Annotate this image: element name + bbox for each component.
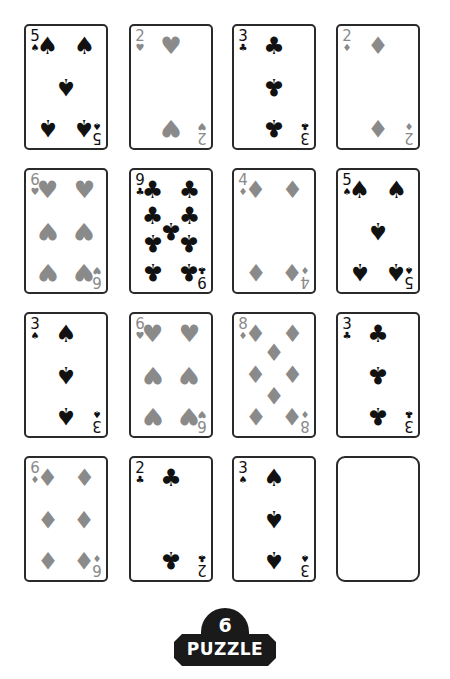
diamond-pip-icon: ♦	[72, 507, 96, 531]
spade-pip-icon: ♠	[262, 466, 286, 490]
diamond-pip-icon: ♦	[280, 260, 304, 284]
card-4-of-diamonds[interactable]: 4♦4♦♦♦♦♦	[232, 168, 316, 294]
diamond-pip-icon: ♦	[244, 404, 268, 428]
club-pip-icon: ♣	[141, 231, 165, 255]
heart-pip-icon: ♥	[141, 363, 165, 387]
club-pip-icon: ♣	[141, 178, 165, 202]
rank-label: 3	[341, 317, 353, 331]
club-pip-icon: ♣	[159, 548, 183, 572]
card-index-tl: 2♥	[134, 29, 146, 53]
card-3-of-spades[interactable]: 3♠3♠♠♠♠	[24, 312, 108, 438]
card-index-br: 3♠	[91, 409, 103, 433]
rank-label: 2	[196, 131, 208, 145]
rank-label: 2	[341, 29, 353, 43]
club-pip-icon: ♣	[262, 34, 286, 58]
card-3-of-clubs[interactable]: 3♣3♣♣♣♣	[232, 24, 316, 150]
rank-label: 2	[134, 461, 146, 475]
spade-pip-icon: ♠	[366, 219, 390, 243]
heart-pip-icon: ♥	[177, 404, 201, 428]
card-2-of-clubs[interactable]: 2♣2♣♣♣	[129, 456, 213, 582]
card-5-of-spades[interactable]: 5♠5♠♠♠♠♠♠	[336, 168, 420, 294]
spade-pip-icon: ♠	[348, 260, 372, 284]
heart-pip-icon: ♥	[177, 322, 201, 346]
rank-label: 3	[29, 317, 41, 331]
card-index-tl: 3♣	[341, 317, 353, 341]
diamond-pip-icon: ♦	[36, 466, 60, 490]
rank-label: 3	[91, 419, 103, 433]
puzzle-number: 6	[174, 614, 276, 636]
club-icon: ♣	[237, 43, 249, 53]
card-index-br: 2♦	[403, 121, 415, 145]
card-3-of-spades[interactable]: 3♠3♠♠♠♠	[232, 456, 316, 582]
card-9-of-clubs[interactable]: 9♣9♣♣♣♣♣♣♣♣♣♣	[129, 168, 213, 294]
empty-card-slot[interactable]	[336, 456, 420, 582]
card-index-br: 2♣	[196, 553, 208, 577]
club-pip-icon: ♣	[159, 466, 183, 490]
diamond-pip-icon: ♦	[72, 548, 96, 572]
club-pip-icon: ♣	[366, 404, 390, 428]
club-pip-icon: ♣	[177, 260, 201, 284]
club-pip-icon: ♣	[141, 260, 165, 284]
spade-pip-icon: ♠	[348, 178, 372, 202]
rank-label: 3	[299, 131, 311, 145]
spade-icon: ♠	[237, 475, 249, 485]
card-8-of-diamonds[interactable]: 8♦8♦♦♦♦♦♦♦♦♦	[232, 312, 316, 438]
club-pip-icon: ♣	[177, 178, 201, 202]
rank-label: 3	[237, 461, 249, 475]
diamond-pip-icon: ♦	[366, 116, 390, 140]
card-6-of-diamonds[interactable]: 6♦6♦♦♦♦♦♦♦	[24, 456, 108, 582]
card-index-br: 2♥	[196, 121, 208, 145]
spade-pip-icon: ♠	[384, 178, 408, 202]
club-pip-icon: ♣	[366, 322, 390, 346]
heart-pip-icon: ♥	[36, 178, 60, 202]
spade-pip-icon: ♠	[262, 507, 286, 531]
heart-pip-icon: ♥	[159, 116, 183, 140]
puzzle-label: PUZZLE	[174, 639, 276, 659]
heart-pip-icon: ♥	[141, 322, 165, 346]
spade-pip-icon: ♠	[384, 260, 408, 284]
rank-label: 3	[299, 563, 311, 577]
club-icon: ♣	[341, 331, 353, 341]
card-5-of-spades[interactable]: 5♠5♠♠♠♠♠♠	[24, 24, 108, 150]
rank-label: 2	[134, 29, 146, 43]
card-index-tl: 3♠	[237, 461, 249, 485]
heart-icon: ♥	[134, 43, 146, 53]
card-index-br: 3♣	[403, 409, 415, 433]
puzzle-badge: 6 PUZZLE	[174, 608, 276, 666]
diamond-pip-icon: ♦	[36, 507, 60, 531]
spade-pip-icon: ♠	[36, 34, 60, 58]
diamond-pip-icon: ♦	[366, 34, 390, 58]
diamond-pip-icon: ♦	[244, 260, 268, 284]
card-index-tl: 2♦	[341, 29, 353, 53]
spade-pip-icon: ♠	[72, 116, 96, 140]
spade-pip-icon: ♠	[54, 363, 78, 387]
card-2-of-diamonds[interactable]: 2♦2♦♦♦	[336, 24, 420, 150]
card-2-of-hearts[interactable]: 2♥2♥♥♥	[129, 24, 213, 150]
diamond-pip-icon: ♦	[72, 466, 96, 490]
rank-label: 2	[403, 131, 415, 145]
rank-label: 3	[403, 419, 415, 433]
heart-pip-icon: ♥	[72, 178, 96, 202]
heart-pip-icon: ♥	[36, 260, 60, 284]
card-6-of-hearts[interactable]: 6♥6♥♥♥♥♥♥♥	[24, 168, 108, 294]
heart-pip-icon: ♥	[72, 219, 96, 243]
spade-pip-icon: ♠	[262, 548, 286, 572]
spade-pip-icon: ♠	[54, 75, 78, 99]
heart-pip-icon: ♥	[177, 363, 201, 387]
spade-pip-icon: ♠	[54, 322, 78, 346]
card-index-br: 3♠	[299, 553, 311, 577]
club-pip-icon: ♣	[262, 75, 286, 99]
spade-pip-icon: ♠	[72, 34, 96, 58]
card-6-of-hearts[interactable]: 6♥6♥♥♥♥♥♥♥	[129, 312, 213, 438]
club-pip-icon: ♣	[366, 363, 390, 387]
card-index-br: 3♣	[299, 121, 311, 145]
card-3-of-clubs[interactable]: 3♣3♣♣♣♣	[336, 312, 420, 438]
diamond-pip-icon: ♦	[280, 404, 304, 428]
club-icon: ♣	[134, 475, 146, 485]
diamond-pip-icon: ♦	[244, 178, 268, 202]
heart-pip-icon: ♥	[141, 404, 165, 428]
rank-label: 3	[237, 29, 249, 43]
club-pip-icon: ♣	[262, 116, 286, 140]
rank-label: 2	[196, 563, 208, 577]
card-index-tl: 2♣	[134, 461, 146, 485]
